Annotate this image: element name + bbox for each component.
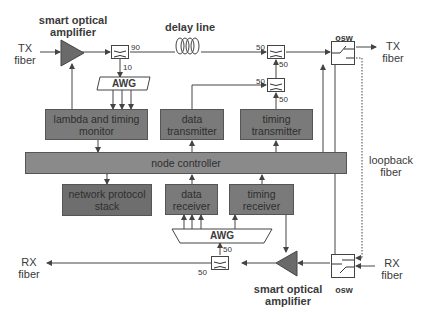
amplifier-bottom-label: smart optical amplifier <box>253 283 323 307</box>
loopback-fiber-label: loopback fiber <box>366 154 416 178</box>
rx-fiber-in-line1: RX <box>375 257 409 269</box>
node-controller-label: node controller <box>151 157 220 169</box>
timing-receiver-line2: receiver <box>243 200 280 212</box>
data-transmitter-block: data transmitter <box>160 109 224 140</box>
timing-transmitter-line2: transmitter <box>252 125 302 137</box>
data-transmitter-line2: transmitter <box>167 125 217 137</box>
switch-icon <box>332 42 354 64</box>
amplifier-bottom-label-line1: smart optical <box>253 283 323 295</box>
tx-fiber-in-line2: fiber <box>10 54 40 66</box>
timing-receiver-block: timing receiver <box>229 184 294 215</box>
osw-top-switch <box>331 41 355 65</box>
network-protocol-stack-block: network protocol stack <box>62 184 152 216</box>
awg-top-label: AWG <box>100 78 148 90</box>
timing-receiver-line1: timing <box>243 188 280 200</box>
rx-fiber-out-label: RX fiber <box>14 256 44 280</box>
coupler-icon <box>268 81 284 93</box>
switch-icon <box>332 255 354 277</box>
data-transmitter-line1: data <box>167 113 217 125</box>
delay-line-label: delay line <box>160 21 220 33</box>
data-receiver-block: data receiver <box>165 184 218 215</box>
tx-fiber-in-line1: TX <box>10 42 40 54</box>
amplifier-bottom-triangle <box>276 251 297 276</box>
lambda-timing-monitor-block: lambda and timing monitor <box>45 109 148 140</box>
splitter-bottom-left-label: 50 <box>198 268 207 277</box>
awg-bottom-label: AWG <box>180 230 264 242</box>
coupler-icon <box>112 48 128 60</box>
tx-fiber-out-line2: fiber <box>377 52 409 64</box>
amplifier-bottom-label-line2: amplifier <box>253 295 323 307</box>
combiner-lower-coupler <box>267 78 285 92</box>
lambda-monitor-line2: monitor <box>54 125 140 137</box>
splitter-bottom-up-label: 50 <box>223 245 232 254</box>
rx-fiber-in-line2: fiber <box>375 269 409 281</box>
osw-bottom-label: osw <box>326 284 362 296</box>
amplifier-top-label-line1: smart optical <box>38 14 108 26</box>
loopback-line2: fiber <box>366 166 416 178</box>
amplifier-top-label-line2: amplifier <box>38 26 108 38</box>
tap-10-label: 10 <box>123 63 132 72</box>
amplifier-top-triangle <box>61 40 84 66</box>
tap-90-label: 90 <box>131 43 140 52</box>
rx-fiber-out-line2: fiber <box>14 268 44 280</box>
network-protocol-line1: network protocol <box>68 188 145 200</box>
rx-fiber-in-label: RX fiber <box>375 257 409 281</box>
tx-fiber-out-label: TX fiber <box>377 40 409 64</box>
node-controller-block: node controller <box>25 152 347 174</box>
splitter-bottom-coupler <box>211 256 229 270</box>
osw-bottom-switch <box>331 254 355 278</box>
loopback-line1: loopback <box>366 154 416 166</box>
timing-transmitter-block: timing transmitter <box>240 109 313 140</box>
combiner-upper-coupler <box>267 45 285 59</box>
delay-line-coil-icon <box>176 38 199 54</box>
data-receiver-line2: receiver <box>173 200 210 212</box>
network-protocol-line2: stack <box>68 200 145 212</box>
tap-coupler <box>111 45 129 59</box>
coupler-icon <box>212 259 228 271</box>
data-receiver-line1: data <box>173 188 210 200</box>
combiner-lower-bottom-label: 50 <box>279 95 288 104</box>
rx-fiber-out-line1: RX <box>14 256 44 268</box>
amplifier-top-label: smart optical amplifier <box>38 14 108 38</box>
combiner-lower-in-label: 50 <box>256 77 265 86</box>
timing-transmitter-line1: timing <box>252 113 302 125</box>
combiner-upper-out-label: 50 <box>279 60 288 69</box>
tx-fiber-out-line1: TX <box>377 40 409 52</box>
coupler-icon <box>268 48 284 60</box>
tx-fiber-in-label: TX fiber <box>10 42 40 66</box>
combiner-upper-in-label: 50 <box>256 43 265 52</box>
lambda-monitor-line1: lambda and timing <box>54 113 140 125</box>
